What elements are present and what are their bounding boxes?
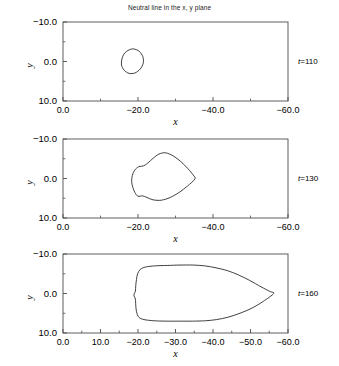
y-tick-label: 10.0 [39,212,58,223]
x-tick-label: −60.0 [277,105,300,115]
x-tick-label: −20.0 [127,337,150,347]
x-tick-label: −40.0 [202,222,225,232]
neutral-line-contour [134,265,274,321]
plot-area-t160: 0.010.0−20.0−30.0−40.0−50.0−60.0−10.00.0… [0,246,339,366]
x-tick-label: −50.0 [239,337,262,347]
panel-t130: 0.0−20.0−40.0−60.0−10.00.010.0xyt=130 [0,131,339,251]
time-annotation: t=130 [298,174,318,183]
figure: Neutral line in the x, y plane 0.0−20.0−… [0,0,339,366]
figure-title: Neutral line in the x, y plane [0,4,339,11]
y-tick-label: 0.0 [44,288,57,299]
y-axis-label: y [24,63,35,69]
neutral-line-contour [121,49,143,74]
x-axis-label: x [172,116,178,127]
x-tick-label: −60.0 [277,222,300,232]
neutral-line-contour [132,153,196,201]
plot-area-t110: 0.0−20.0−40.0−60.0−10.00.010.0xy [0,14,339,134]
time-annotation: t=160 [298,289,318,298]
x-tick-label: −20.0 [127,222,150,232]
x-axis-label: x [172,233,178,244]
axes-frame [63,22,288,101]
x-axis-label: x [172,348,178,359]
x-tick-label: 0.0 [57,105,70,115]
x-tick-label: −30.0 [164,337,187,347]
time-value: =160 [300,289,318,298]
y-tick-label: 0.0 [44,173,57,184]
y-tick-label: −10.0 [33,133,57,144]
y-axis-label: y [24,295,35,301]
axes-frame [63,139,288,218]
plot-area-t130: 0.0−20.0−40.0−60.0−10.00.010.0xy [0,131,339,251]
x-tick-label: −40.0 [202,337,225,347]
x-tick-label: 10.0 [92,337,110,347]
x-tick-label: −20.0 [127,105,150,115]
time-annotation: t=110 [298,57,318,66]
y-tick-label: −10.0 [33,16,57,27]
time-value: =110 [300,57,317,66]
x-tick-label: −40.0 [202,105,225,115]
panel-t110: 0.0−20.0−40.0−60.0−10.00.010.0xyt=110 [0,14,339,134]
x-tick-label: 0.0 [57,222,70,232]
y-tick-label: 10.0 [39,95,58,106]
x-tick-label: −60.0 [277,337,300,347]
y-tick-label: −10.0 [33,248,57,259]
y-axis-label: y [24,180,35,186]
x-tick-label: 0.0 [57,337,70,347]
panel-t160: 0.010.0−20.0−30.0−40.0−50.0−60.0−10.00.0… [0,246,339,366]
time-value: =130 [300,174,318,183]
y-tick-label: 10.0 [39,327,58,338]
y-tick-label: 0.0 [44,56,57,67]
